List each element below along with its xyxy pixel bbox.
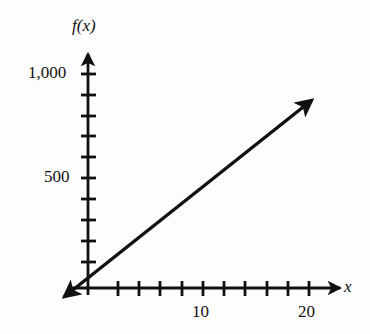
y-axis-label: f(x) [72, 16, 96, 36]
data-line-fx [64, 100, 312, 297]
y-tick-label-1000: 1,000 [28, 63, 66, 83]
y-axis [81, 54, 96, 295]
x-axis-label: x [344, 277, 352, 297]
chart-figure: f(x) x 1,000 500 10 20 [0, 0, 370, 334]
y-tick-label-500: 500 [44, 167, 70, 187]
x-axis [72, 281, 340, 296]
x-tick-label-20: 20 [298, 302, 315, 322]
x-tick-label-10: 10 [192, 302, 209, 322]
